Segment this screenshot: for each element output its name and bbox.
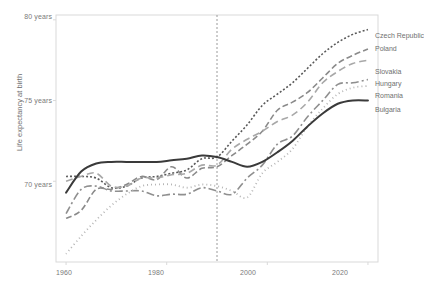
series-label-poland: Poland bbox=[375, 45, 397, 52]
series-line-bulgaria bbox=[66, 100, 368, 192]
series-label-hungary: Hungary bbox=[375, 80, 401, 87]
y-tick-label-80: 80 years bbox=[4, 13, 52, 20]
series-label-czech-republic: Czech Republic bbox=[375, 32, 424, 39]
x-tick-label-2000: 2000 bbox=[230, 269, 266, 276]
x-tick-label-2020: 2020 bbox=[322, 269, 358, 276]
x-tick-label-1980: 1980 bbox=[138, 269, 174, 276]
series-label-slovakia: Slovakia bbox=[375, 68, 401, 75]
x-tick-label-1960: 1960 bbox=[46, 269, 82, 276]
series-label-romania: Romania bbox=[375, 92, 403, 99]
series-label-bulgaria: Bulgaria bbox=[375, 106, 401, 113]
y-tick-label-70: 70 years bbox=[4, 181, 52, 188]
y-tick-label-75: 75 years bbox=[4, 97, 52, 104]
y-axis-title: Life expectancy at birth bbox=[15, 58, 24, 168]
